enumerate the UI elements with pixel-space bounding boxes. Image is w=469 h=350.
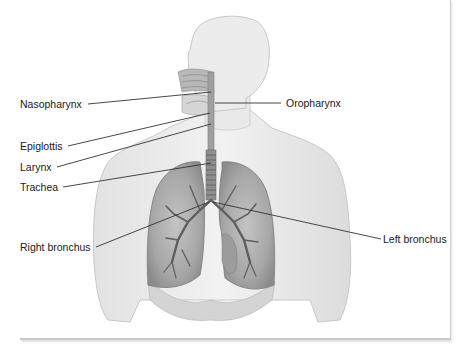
label-larynx: Larynx <box>20 161 52 173</box>
pharynx <box>208 72 214 150</box>
respiratory-illustration <box>0 0 469 350</box>
diagram-frame: Nasopharynx Oropharynx Epiglottis Larynx… <box>0 0 469 350</box>
oral-cavity <box>182 95 212 115</box>
label-oropharynx: Oropharynx <box>286 97 341 109</box>
label-trachea: Trachea <box>20 181 58 193</box>
label-nasopharynx: Nasopharynx <box>20 98 82 110</box>
label-epiglottis: Epiglottis <box>20 140 63 152</box>
label-left-bronchus: Left bronchus <box>383 233 447 245</box>
label-right-bronchus: Right bronchus <box>20 241 91 253</box>
